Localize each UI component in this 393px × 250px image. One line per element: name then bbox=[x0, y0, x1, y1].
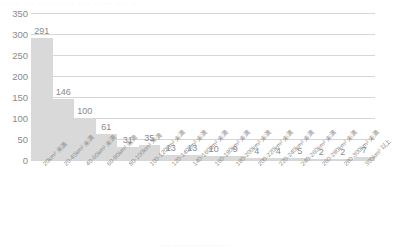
bottom-cut-off-caption: ···· ······ ············ ····· bbox=[0, 241, 390, 250]
y-tick-label: 200 bbox=[2, 72, 28, 81]
bar bbox=[31, 38, 53, 160]
y-tick-label: 0 bbox=[2, 156, 28, 165]
y-tick-label: 350 bbox=[2, 9, 28, 18]
y-tick-label: 50 bbox=[2, 135, 28, 144]
top-cut-off-text: ·· ···· ··· ··· ···· ··· ···· ·· ··· ···… bbox=[0, 0, 390, 7]
y-tick-label: 100 bbox=[2, 114, 28, 123]
bar-value-label: 291 bbox=[31, 27, 53, 36]
y-tick-label: 250 bbox=[2, 51, 28, 60]
x-axis-labels: 20km² 未満20-40km² 未満40-60km² 未満60-80km² 未… bbox=[31, 162, 375, 232]
y-tick-label: 300 bbox=[2, 30, 28, 39]
y-axis-labels: 050100150200250300350 bbox=[0, 13, 28, 160]
bar-value-label: 61 bbox=[96, 123, 118, 132]
bar-value-label: 146 bbox=[53, 88, 75, 97]
bar-value-label: 100 bbox=[74, 107, 96, 116]
y-tick-label: 150 bbox=[2, 93, 28, 102]
